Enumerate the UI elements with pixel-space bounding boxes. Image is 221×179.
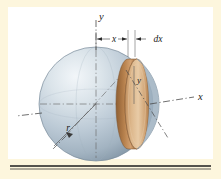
dimension-x: x	[97, 34, 127, 44]
label-axis-y: y	[98, 11, 104, 22]
label-dimension-x: x	[111, 34, 117, 44]
axis-x-left	[16, 113, 42, 116]
elemental-disk	[116, 59, 149, 149]
label-axis-x: x	[197, 91, 203, 102]
label-sphere-radius: r	[66, 123, 70, 133]
label-disk-radius: y	[136, 75, 141, 85]
sphere-diagram: r y y x	[0, 0, 221, 179]
dimension-dx: dx	[136, 34, 163, 44]
label-dimension-dx: dx	[154, 34, 164, 44]
figure-root: r y y x	[0, 0, 221, 179]
